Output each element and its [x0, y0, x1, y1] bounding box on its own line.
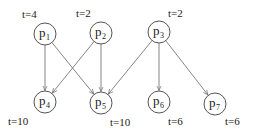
node-time-label: t=2 [76, 7, 91, 19]
node-label: p [95, 94, 102, 109]
node-p3: p3t=2 [148, 7, 183, 43]
node-p6: p6t=6 [148, 91, 183, 127]
node-p2: p2t=2 [76, 7, 112, 44]
node-label: p [39, 25, 46, 40]
node-subscript: 4 [46, 101, 50, 110]
edges-group [45, 41, 208, 95]
node-label: p [153, 23, 160, 38]
node-subscript: 2 [102, 32, 106, 41]
node-label: p [209, 95, 216, 110]
node-subscript: 7 [216, 103, 220, 112]
node-subscript: 3 [160, 31, 164, 40]
node-p1: p1t=4 [22, 8, 56, 45]
node-time-label: t=10 [110, 116, 131, 128]
node-label: p [95, 24, 102, 39]
edge-p2-p4 [52, 42, 94, 94]
node-time-label: t=4 [22, 8, 37, 20]
node-time-label: t=10 [8, 115, 29, 127]
node-time-label: t=6 [225, 115, 240, 127]
node-p5: p5t=10 [90, 92, 131, 128]
node-subscript: 1 [46, 33, 50, 42]
edge-p3-p5 [108, 41, 152, 95]
node-p4: p4t=10 [8, 91, 56, 127]
node-time-label: t=6 [168, 115, 183, 127]
edge-p3-p7 [166, 41, 208, 95]
node-p7: p7t=6 [204, 93, 240, 127]
node-subscript: 6 [160, 101, 164, 110]
node-time-label: t=2 [168, 7, 183, 19]
node-label: p [153, 93, 160, 108]
node-label: p [39, 93, 46, 108]
task-graph: p1t=4p2t=2p3t=2p4t=10p5t=10p6t=6p7t=6 [0, 0, 255, 133]
node-subscript: 5 [102, 102, 106, 111]
nodes-group: p1t=4p2t=2p3t=2p4t=10p5t=10p6t=6p7t=6 [8, 7, 240, 128]
